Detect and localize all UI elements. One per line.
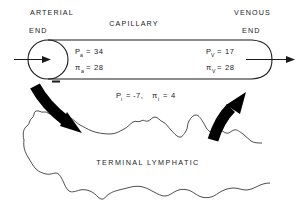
label-venous-end: END — [242, 26, 260, 35]
label-venous: VENOUS — [234, 8, 271, 17]
interstitial-oncotic-equals: = — [163, 91, 168, 100]
interstitial-hydrostatic-value: -7, — [133, 91, 143, 100]
venous-outflow-arrow — [246, 56, 295, 63]
arterial-oncotic-equals: = — [86, 63, 91, 72]
arterial-oncotic-value: 28 — [94, 63, 103, 72]
venous-hydrostatic-value: 17 — [225, 47, 234, 56]
diagram-canvas: ARTERIAL END CAPILLARY VENOUS END P a = … — [0, 0, 303, 216]
arterial-pressure-group: P a = 34 π a = 28 — [75, 47, 103, 74]
venous-oncotic-symbol: π — [206, 63, 212, 72]
venous-oncotic-value: 28 — [225, 63, 234, 72]
venous-pressure-group: P V = 17 π V = 28 — [206, 47, 234, 74]
filtration-arrow-left — [35, 86, 82, 133]
interstitial-hydrostatic-equals: = — [126, 91, 131, 100]
interstitial-pressure-group: P i = -7, π i = 4 — [116, 91, 176, 102]
interstitial-oncotic-symbol: π — [152, 91, 158, 100]
label-arterial-end: END — [29, 26, 47, 35]
venous-hydrostatic-subscript: V — [211, 52, 215, 58]
arterial-inflow-arrow — [14, 56, 51, 63]
arterial-oncotic-symbol: π — [75, 63, 81, 72]
arterial-hydrostatic-equals: = — [86, 47, 91, 56]
lymphatic-lower-outline — [46, 173, 270, 199]
label-capillary: CAPILLARY — [109, 19, 158, 28]
terminal-lymphatic-vessel — [23, 111, 270, 199]
label-terminal-lymphatic: TERMINAL LYMPHATIC — [96, 158, 199, 167]
interstitial-oncotic-value: 4 — [171, 91, 176, 100]
arterial-hydrostatic-value: 34 — [94, 47, 103, 56]
interstitial-oncotic-subscript: i — [158, 96, 159, 102]
interstitial-hydrostatic-subscript: i — [121, 96, 122, 102]
capillary-lymphatic-diagram: ARTERIAL END CAPILLARY VENOUS END P a = … — [0, 0, 303, 216]
venous-oncotic-subscript: V — [212, 68, 216, 74]
arterial-oncotic-subscript: a — [81, 68, 84, 74]
lymphatic-left-tip — [24, 140, 46, 174]
venous-oncotic-equals: = — [217, 63, 222, 72]
capillary-vessel — [28, 40, 272, 79]
label-arterial: ARTERIAL — [30, 8, 74, 17]
arterial-hydrostatic-subscript: a — [80, 52, 83, 58]
venous-hydrostatic-equals: = — [217, 47, 222, 56]
